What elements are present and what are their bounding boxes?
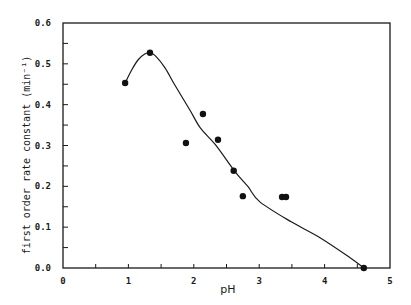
x-tick-label: 4 <box>322 276 328 286</box>
data-point <box>215 137 221 143</box>
chart: 0.00.10.20.30.40.50.6 012345 first order… <box>0 0 411 305</box>
x-axis-title: pH <box>220 283 235 296</box>
y-axis-tick-labels: 0.00.10.20.30.40.50.6 <box>35 18 52 273</box>
plot-frame <box>63 23 390 268</box>
data-point <box>183 140 189 146</box>
x-tick-label: 1 <box>126 276 131 286</box>
y-axis-title: first order rate constant (min⁻¹) <box>21 56 32 255</box>
y-tick-label: 0.1 <box>35 222 51 232</box>
data-point <box>283 194 289 200</box>
data-point <box>230 168 236 174</box>
data-points <box>122 50 367 272</box>
x-tick-label: 0 <box>60 276 65 286</box>
y-axis-ticks <box>63 43 68 247</box>
y-tick-label: 0.5 <box>35 59 51 69</box>
data-point <box>147 50 153 56</box>
fitted-curve-line <box>125 53 364 268</box>
y-tick-label: 0.4 <box>35 100 52 110</box>
y-tick-label: 0.6 <box>35 18 51 28</box>
x-tick-label: 5 <box>387 276 392 286</box>
data-point <box>200 111 206 117</box>
x-tick-label: 3 <box>256 276 261 286</box>
x-tick-label: 2 <box>191 276 196 286</box>
data-point <box>122 80 128 86</box>
y-tick-label: 0.2 <box>35 181 51 191</box>
data-point <box>361 265 367 271</box>
y-tick-label: 0.3 <box>35 141 51 151</box>
data-point <box>240 193 246 199</box>
y-tick-label: 0.0 <box>35 263 51 273</box>
